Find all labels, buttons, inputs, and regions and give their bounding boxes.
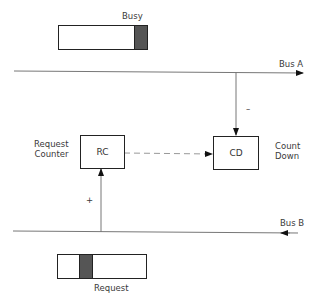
rc-to-cd-dashed-arrow <box>124 153 212 154</box>
count-down-label: Count Down <box>275 141 300 161</box>
bus-a-label: Bus A <box>279 59 303 69</box>
request-counter-label: Request Counter <box>34 139 69 159</box>
bus-b-line <box>13 231 298 233</box>
request-label: Request <box>94 283 129 293</box>
bus-b-label: Bus B <box>280 218 304 228</box>
count-down-line1: Count <box>275 141 300 151</box>
cd-label: CD <box>214 148 258 158</box>
busy-label: Busy <box>122 11 143 21</box>
request-counter-line2: Counter <box>34 149 69 159</box>
bus-a-line <box>14 71 303 73</box>
plus-sign: + <box>86 195 93 205</box>
request-bit <box>79 255 93 278</box>
request-register <box>57 254 147 279</box>
request-counter-line1: Request <box>34 139 69 149</box>
rc-node: RC <box>80 135 125 169</box>
busy-bit <box>134 26 148 49</box>
count-down-line2: Down <box>275 151 300 161</box>
cd-node: CD <box>213 136 259 170</box>
minus-sign: – <box>246 104 250 114</box>
rc-label: RC <box>81 147 124 157</box>
busy-register <box>58 25 148 50</box>
